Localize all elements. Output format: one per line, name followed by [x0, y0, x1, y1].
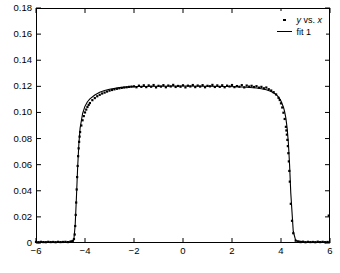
data-point [265, 86, 267, 88]
data-point [194, 86, 196, 88]
data-point [300, 241, 302, 243]
data-point [37, 241, 39, 243]
data-point [42, 241, 44, 243]
data-point [233, 86, 235, 88]
data-point [322, 241, 324, 243]
data-point [307, 241, 309, 243]
data-point [165, 86, 167, 88]
legend: y vs. x fit 1 [272, 11, 326, 40]
data-point [126, 86, 128, 88]
data-point [226, 85, 228, 87]
data-point [172, 84, 174, 86]
x-tick-label: 2 [229, 246, 234, 256]
y-tick-label: 0.18 [14, 3, 33, 13]
data-point [78, 147, 80, 149]
data-point [74, 225, 76, 227]
data-point [216, 84, 218, 86]
data-point [241, 84, 243, 86]
data-point [236, 85, 238, 87]
data-point [50, 241, 52, 243]
data-point [108, 90, 110, 92]
data-point [133, 85, 135, 87]
data-point [170, 85, 172, 87]
legend-entry-data: y vs. x [276, 14, 322, 25]
data-point [263, 87, 265, 89]
data-point [111, 89, 113, 91]
data-point [224, 86, 226, 88]
data-point [189, 85, 191, 87]
data-point [138, 85, 140, 87]
data-point [143, 84, 145, 86]
data-point [314, 241, 316, 243]
data-point [76, 176, 78, 178]
data-point [326, 241, 328, 243]
data-point [157, 85, 159, 87]
data-point [76, 188, 78, 190]
chart-figure: 00.020.040.060.080.100.120.140.160.18 y … [0, 0, 340, 273]
data-point [302, 241, 304, 243]
data-point [328, 214, 330, 216]
data-point [255, 85, 257, 87]
data-point [94, 97, 96, 99]
data-point [167, 84, 169, 86]
legend-x-symbol: x [318, 15, 323, 25]
data-point [187, 85, 189, 87]
data-point [277, 97, 279, 99]
data-point [86, 106, 88, 108]
data-point [84, 111, 86, 113]
legend-label-fit: fit 1 [296, 27, 311, 37]
data-point [123, 86, 125, 88]
data-point [279, 99, 281, 101]
data-point [113, 88, 115, 90]
data-point [40, 241, 42, 243]
x-tick-label: −2 [129, 246, 140, 256]
data-point [231, 84, 233, 86]
data-point [221, 84, 223, 86]
data-point [284, 118, 286, 120]
data-point [77, 155, 79, 157]
x-tick-label: −6 [31, 246, 42, 256]
data-point [57, 241, 59, 243]
data-point [80, 124, 82, 126]
data-point [153, 84, 155, 86]
data-point [145, 86, 147, 88]
data-point [67, 241, 69, 243]
data-point [128, 86, 130, 88]
data-point [219, 86, 221, 88]
y-tick-label: 0.06 [14, 160, 33, 170]
data-point [116, 88, 118, 90]
data-point [118, 87, 120, 89]
data-point [121, 87, 123, 89]
data-point [268, 88, 270, 90]
data-point [52, 241, 54, 243]
data-point [312, 241, 314, 243]
legend-vs-text: vs. [301, 15, 318, 25]
y-tick-label: 0.10 [14, 108, 33, 118]
data-point [289, 181, 291, 183]
data-point [74, 233, 76, 235]
data-point [324, 241, 326, 243]
data-point [99, 94, 101, 96]
data-point [106, 90, 108, 92]
legend-label-data: y vs. x [296, 15, 322, 25]
data-point [101, 92, 103, 94]
data-point [209, 85, 211, 87]
data-point [135, 86, 137, 88]
data-point [251, 85, 253, 87]
x-tick-label: 6 [327, 246, 332, 256]
y-tick-label: 0.12 [14, 82, 33, 92]
data-point [162, 84, 164, 86]
data-point [150, 86, 152, 88]
x-tick-label: 0 [180, 246, 185, 256]
data-point [45, 241, 47, 243]
data-point [258, 87, 260, 89]
y-tick-label: 0.04 [14, 186, 33, 196]
data-point [75, 201, 77, 203]
data-point [47, 241, 49, 243]
data-point [85, 108, 87, 110]
data-point [55, 241, 57, 243]
data-point [211, 84, 213, 86]
data-point [35, 241, 37, 243]
data-point [270, 89, 272, 91]
data-point [160, 85, 162, 87]
